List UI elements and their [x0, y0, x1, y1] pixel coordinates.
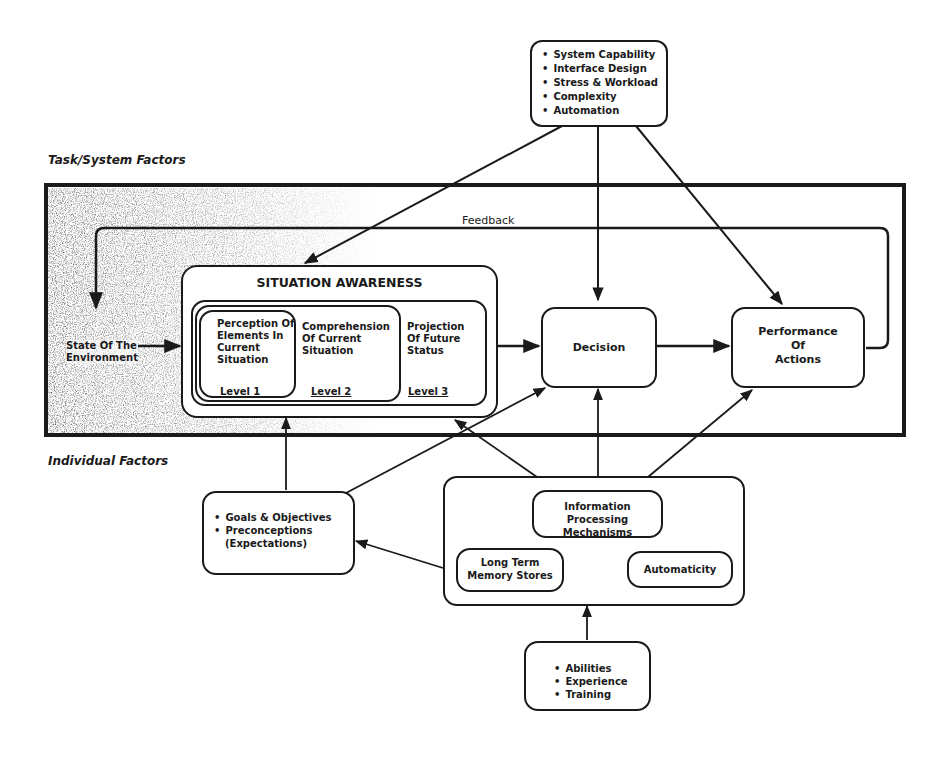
ability-experience: Experience	[554, 675, 628, 688]
expectations: (Expectations)	[225, 537, 307, 550]
system-factors-list: System Capability Interface Design Stres…	[542, 48, 658, 118]
level-2-label: Level 2	[311, 385, 351, 398]
goals-objectives: Goals & Objectives	[214, 511, 332, 524]
level-1-text: Perception Of Elements In Current Situat…	[217, 318, 297, 366]
ability-training: Training	[554, 688, 628, 701]
info-processing-label: Information Processing Mechanisms	[534, 500, 661, 539]
situation-awareness-title: SITUATION AWARENESS	[183, 276, 496, 289]
system-factors-box: System Capability Interface Design Stres…	[530, 40, 668, 127]
goals-box: Goals & Objectives Preconceptions (Expec…	[202, 491, 355, 575]
factor-interface-design: Interface Design	[542, 62, 658, 76]
individual-factors-label: Individual Factors	[48, 454, 168, 468]
memory-label: Long Term Memory Stores	[458, 556, 562, 582]
level-2-text: Comprehension Of Current Situation	[302, 321, 398, 357]
decision-box: Decision	[541, 307, 657, 388]
level-3-label: Level 3	[408, 385, 448, 398]
feedback-label: Feedback	[462, 214, 514, 227]
info-processing-box: Information Processing Mechanisms	[532, 490, 663, 538]
performance-box: Performance Of Actions	[731, 307, 865, 388]
factor-complexity: Complexity	[542, 90, 658, 104]
memory-box: Long Term Memory Stores	[456, 548, 564, 592]
goals-list: Goals & Objectives Preconceptions	[214, 511, 332, 537]
ability-abilities: Abilities	[554, 662, 628, 675]
decision-label: Decision	[543, 341, 655, 354]
automaticity-label: Automaticity	[629, 563, 731, 576]
level-1-label: Level 1	[220, 385, 260, 398]
environment-label: State Of The Environment	[66, 340, 138, 364]
automaticity-box: Automaticity	[627, 551, 733, 588]
factor-stress-workload: Stress & Workload	[542, 76, 658, 90]
performance-label: Performance Of Actions	[733, 325, 863, 367]
abilities-list: Abilities Experience Training	[554, 662, 628, 701]
level-3-text: Projection Of Future Status	[407, 321, 471, 357]
factor-automation: Automation	[542, 104, 658, 118]
preconceptions: Preconceptions	[214, 524, 332, 537]
task-system-factors-label: Task/System Factors	[48, 153, 186, 167]
abilities-box: Abilities Experience Training	[524, 641, 651, 711]
factor-system-capability: System Capability	[542, 48, 658, 62]
